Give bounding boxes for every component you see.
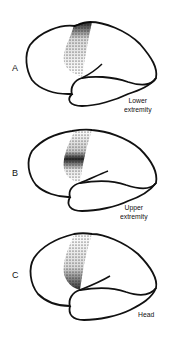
panel-caption: Head — [138, 310, 154, 319]
caption-line: Head — [138, 310, 154, 319]
caption-line: Upper — [125, 203, 144, 212]
caption-line: extremity — [120, 212, 148, 221]
panel-letter: B — [12, 168, 18, 178]
panel-a: A Lower extremity — [0, 0, 170, 113]
panel-caption: Upper extremity — [120, 203, 148, 221]
panel-b: B Upper extremity — [0, 113, 170, 226]
panel-letter: C — [12, 270, 19, 280]
panel-c: C Head — [0, 226, 170, 339]
panel-caption: Lower extremity — [124, 96, 152, 114]
panel-letter: A — [12, 63, 18, 73]
caption-line: Lower — [129, 96, 148, 105]
brain-lateral-view-icon — [0, 226, 170, 339]
